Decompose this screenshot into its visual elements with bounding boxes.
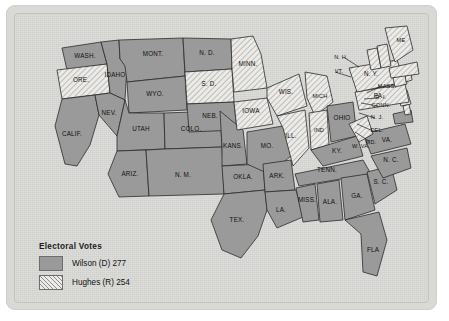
state-label-vt: VT.: [335, 68, 344, 74]
state-label-ore: ORE.: [73, 76, 89, 83]
state-label-ill: ILL.: [285, 132, 296, 139]
state-label-la: LA.: [276, 206, 286, 213]
legend-swatch-wilson: [39, 256, 63, 271]
legend-swatch-hughes: [39, 275, 63, 290]
map-legend: Electoral Votes Wilson (D) 277 Hughes (R…: [39, 242, 189, 294]
state-label-ky: KY.: [332, 147, 342, 154]
legend-entry-wilson: Wilson (D) 277: [39, 256, 189, 271]
state-label-minn: MINN.: [239, 60, 258, 67]
state-label-nev: NEV.: [102, 109, 117, 116]
state-label-okla: OKLA.: [233, 173, 253, 180]
state-label-ny: N. Y.: [364, 70, 378, 77]
state-label-conn: CONN.: [371, 102, 390, 108]
state-label-utah: UTAH: [132, 125, 150, 132]
state-wis[interactable]: [267, 74, 307, 116]
state-iowa[interactable]: [234, 98, 273, 130]
state-label-calif: CALIF.: [62, 130, 82, 137]
state-label-sd: S. D.: [202, 80, 217, 87]
state-label-iowa: IOWA: [242, 107, 260, 114]
state-label-ind: IND: [314, 127, 324, 133]
state-label-ohio: OHIO: [334, 114, 351, 121]
state-label-wis: WIS.: [279, 88, 293, 95]
state-label-ark: ARK.: [269, 172, 285, 179]
state-label-ga: GA.: [351, 192, 362, 199]
state-label-nmex: N. M.: [175, 171, 191, 178]
legend-title: Electoral Votes: [39, 242, 189, 251]
state-label-mass: MASS.: [378, 83, 397, 89]
state-label-wyo: WYO.: [146, 90, 164, 97]
state-tex[interactable]: [211, 190, 267, 258]
state-label-idaho: IDAHO: [105, 71, 126, 78]
state-label-fla: FLA: [367, 246, 380, 253]
state-fla[interactable]: [345, 212, 387, 276]
state-label-colo: COLO.: [181, 125, 202, 132]
legend-label-hughes: Hughes (R) 254: [72, 278, 130, 287]
state-label-neb: NEB.: [202, 112, 218, 119]
state-label-nj: N. J.: [371, 114, 384, 120]
state-label-mont: MONT.: [143, 50, 164, 57]
state-label-sc: S. C.: [374, 178, 389, 185]
state-ohio[interactable]: [327, 102, 357, 142]
map-page-inner: WASH.ORE.CALIF.IDAHONEV.MONT.WYO.UTAHARI…: [14, 13, 429, 303]
state-label-mo: MO.: [261, 142, 274, 149]
state-label-nc: N. C.: [383, 156, 398, 163]
state-label-wash: WASH.: [74, 52, 95, 59]
state-label-mich: MICH: [312, 93, 327, 99]
state-label-ariz: ARIZ.: [121, 170, 138, 177]
state-label-tex: TEX.: [230, 216, 245, 223]
state-label-miss: MISS.: [298, 196, 316, 203]
state-mont[interactable]: [119, 38, 185, 82]
state-label-tenn: TENN.: [317, 166, 337, 173]
screenshot-root: WASH.ORE.CALIF.IDAHONEV.MONT.WYO.UTAHARI…: [0, 0, 449, 321]
legend-label-wilson: Wilson (D) 277: [72, 259, 126, 268]
state-label-me: ME: [397, 37, 406, 43]
state-label-del: DEL.: [370, 127, 383, 133]
state-label-md: MD.: [366, 139, 377, 145]
state-label-nd: N. D.: [199, 49, 214, 56]
state-label-nh: N. H.: [334, 54, 348, 60]
state-label-ala: ALA.: [323, 198, 338, 205]
state-label-ri: R. I.: [375, 94, 387, 100]
map-page-panel: WASH.ORE.CALIF.IDAHONEV.MONT.WYO.UTAHARI…: [6, 5, 437, 310]
legend-entry-hughes: Hughes (R) 254: [39, 275, 189, 290]
state-label-kans: KANS.: [223, 142, 243, 149]
state-label-va: VA.: [382, 136, 392, 143]
